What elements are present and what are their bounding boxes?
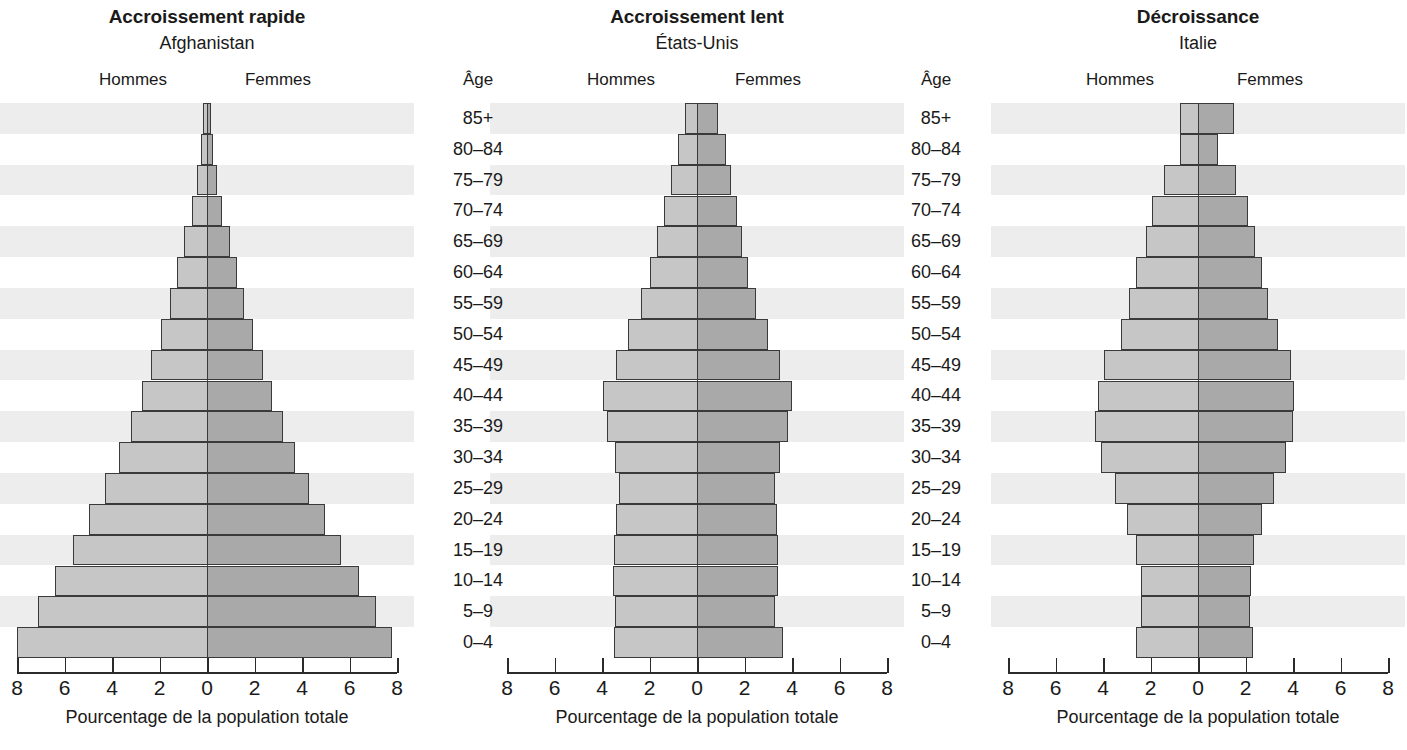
bar-male-75–79 — [197, 165, 208, 196]
row-band — [0, 504, 414, 535]
x-tick-label: 0 — [201, 676, 213, 700]
x-axis-1: 864202468 — [0, 658, 416, 688]
bar-male-40–44 — [142, 381, 208, 412]
axis-baseline-2 — [507, 672, 887, 674]
age-label-75–79: 75–79 — [876, 165, 996, 196]
pyramid-row — [991, 473, 1405, 504]
row-band — [991, 257, 1405, 288]
bar-female-20–24 — [1198, 504, 1262, 535]
bar-male-20–24 — [89, 504, 208, 535]
bar-male-0–4 — [614, 627, 698, 658]
pyramid-row — [991, 627, 1405, 658]
pyramid-row — [490, 442, 904, 473]
row-band — [0, 473, 414, 504]
plot-area-3 — [991, 103, 1405, 658]
pyramid-row — [991, 103, 1405, 134]
chart-header-1: Accroissement rapideAfghanistanHommesFem… — [2, 0, 412, 100]
bar-male-85+ — [203, 103, 208, 134]
bar-male-80–84 — [1180, 134, 1199, 165]
row-band — [0, 257, 414, 288]
x-tick-label: 6 — [1335, 676, 1347, 700]
pyramid-row — [0, 381, 414, 412]
age-label-70–74: 70–74 — [418, 196, 538, 227]
row-band — [490, 350, 904, 381]
plot-area-1 — [0, 103, 414, 658]
pyramid-row — [490, 226, 904, 257]
bar-male-50–54 — [628, 319, 698, 350]
x-tick-label: 0 — [691, 676, 703, 700]
bar-male-60–64 — [650, 257, 699, 288]
row-band — [490, 165, 904, 196]
x-tick-label: 2 — [1240, 676, 1252, 700]
age-label-0–4: 0–4 — [876, 627, 996, 658]
bar-male-65–69 — [1146, 226, 1199, 257]
bar-male-55–59 — [1129, 288, 1199, 319]
age-label-45–49: 45–49 — [418, 350, 538, 381]
bar-male-15–19 — [73, 535, 208, 566]
age-label-35–39: 35–39 — [418, 411, 538, 442]
x-axis-title-1: Pourcentage de la population totale — [65, 707, 348, 728]
bar-male-45–49 — [616, 350, 698, 381]
bar-female-10–14 — [1198, 566, 1251, 597]
bar-male-75–79 — [1164, 165, 1199, 196]
pyramid-row — [991, 196, 1405, 227]
age-label-35–39: 35–39 — [876, 411, 996, 442]
legend-women-2: Femmes — [735, 70, 801, 90]
sex-legend-1: HommesFemmes — [2, 70, 412, 92]
bar-male-65–69 — [184, 226, 208, 257]
bar-male-50–54 — [161, 319, 208, 350]
pyramid-row — [0, 504, 414, 535]
pyramid-row — [0, 442, 414, 473]
row-band — [991, 226, 1405, 257]
pyramid-row — [0, 350, 414, 381]
row-band — [991, 319, 1405, 350]
center-axis-line-1 — [207, 103, 208, 658]
bar-female-80–84 — [1198, 134, 1218, 165]
x-tick — [302, 658, 304, 673]
bar-male-5–9 — [615, 596, 698, 627]
x-tick — [555, 658, 557, 673]
bar-male-25–29 — [619, 473, 698, 504]
row-band — [0, 566, 414, 597]
age-label-85+: 85+ — [876, 103, 996, 134]
bar-male-0–4 — [17, 627, 208, 658]
row-band — [490, 226, 904, 257]
row-band — [991, 381, 1405, 412]
bar-male-70–74 — [192, 196, 208, 227]
x-tick-label: 4 — [596, 676, 608, 700]
axis-baseline-3 — [1008, 672, 1388, 674]
pyramid-row — [0, 411, 414, 442]
age-label-10–14: 10–14 — [876, 566, 996, 597]
bar-female-70–74 — [1198, 196, 1248, 227]
bar-male-15–19 — [614, 535, 698, 566]
age-label-80–84: 80–84 — [418, 134, 538, 165]
center-axis-line-2 — [697, 103, 698, 658]
bar-female-35–39 — [207, 411, 283, 442]
pyramid-row — [490, 288, 904, 319]
row-band — [0, 535, 414, 566]
row-band — [490, 103, 904, 134]
age-label-25–29: 25–29 — [418, 473, 538, 504]
age-label-65–69: 65–69 — [876, 226, 996, 257]
row-band — [490, 596, 904, 627]
x-tick — [602, 658, 604, 673]
bar-male-25–29 — [1115, 473, 1199, 504]
pyramid-row — [0, 566, 414, 597]
bar-female-45–49 — [207, 350, 263, 381]
bar-female-65–69 — [1198, 226, 1255, 257]
age-label-60–64: 60–64 — [876, 257, 996, 288]
row-band — [991, 442, 1405, 473]
bar-female-0–4 — [207, 627, 392, 658]
x-tick-label: 2 — [154, 676, 166, 700]
pyramid-row — [991, 319, 1405, 350]
bar-male-85+ — [1180, 103, 1199, 134]
bar-male-75–79 — [671, 165, 698, 196]
x-tick — [745, 658, 747, 673]
bar-female-15–19 — [207, 535, 341, 566]
pyramid-row — [490, 566, 904, 597]
x-tick-label: 0 — [1192, 676, 1204, 700]
x-tick-label: 4 — [296, 676, 308, 700]
bar-male-35–39 — [131, 411, 208, 442]
pyramid-row — [991, 381, 1405, 412]
